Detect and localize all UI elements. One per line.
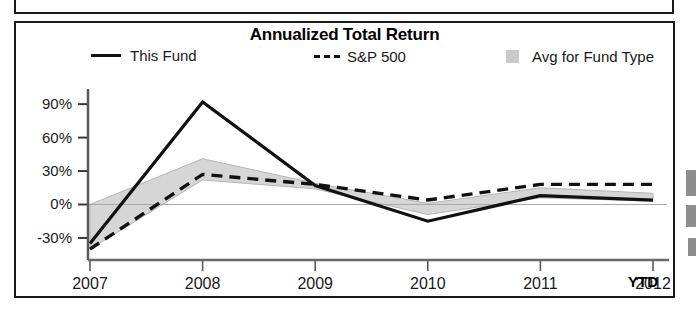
x-axis-tick-labels: 200720082009201020112012 xyxy=(72,275,671,292)
page-edge-artifact-2 xyxy=(686,205,696,227)
y-axis-tick-labels: 90%60%30%0%-30% xyxy=(37,95,72,246)
x-tick-label: 2009 xyxy=(297,275,333,292)
y-tick-label: 30% xyxy=(42,162,72,179)
x-tick-label: 2007 xyxy=(72,275,108,292)
x-axis-ticks xyxy=(90,261,653,271)
y-tick-label: 90% xyxy=(42,95,72,112)
x-tick-label: 2008 xyxy=(185,275,221,292)
x-tick-label: 2010 xyxy=(410,275,446,292)
page-edge-artifact-1 xyxy=(686,170,696,196)
chart-plot-svg: 90%60%30%0%-30% 200720082009201020112012… xyxy=(16,23,677,300)
ytd-annotation: YTD xyxy=(628,273,658,290)
y-axis-ticks xyxy=(78,104,87,238)
x-tick-label: 2011 xyxy=(523,275,558,292)
y-tick-label: -30% xyxy=(37,229,72,246)
upper-panel xyxy=(14,0,674,14)
page-edge-artifact-3 xyxy=(688,238,696,256)
y-tick-label: 60% xyxy=(42,129,72,146)
y-tick-label: 0% xyxy=(50,195,72,212)
annualized-total-return-chart-card: Annualized Total Return This Fund S&P 50… xyxy=(14,21,675,298)
plot-area: 90%60%30%0%-30% 200720082009201020112012… xyxy=(16,23,677,300)
